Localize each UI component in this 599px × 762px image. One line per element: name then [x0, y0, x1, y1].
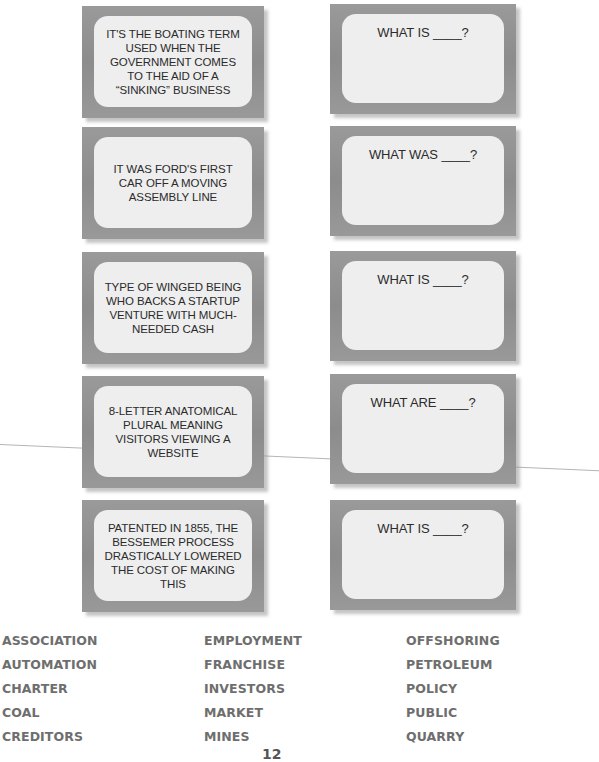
- clue-card-text: PATENTED IN 1855, THE BESSEMER PROCESS D…: [94, 510, 252, 601]
- clue-card-text: IT'S THE BOATING TERM USED WHEN THE GOVE…: [94, 16, 252, 107]
- answer-card-5: WHAT IS ____?: [330, 500, 516, 610]
- answer-card-4: WHAT ARE ____?: [330, 374, 516, 484]
- word-bank-item: MARKET: [204, 701, 302, 725]
- answer-card-text: WHAT IS ____?: [342, 14, 504, 103]
- answer-card-1: WHAT IS ____?: [330, 4, 516, 114]
- answer-card-3: WHAT IS ____?: [330, 251, 516, 361]
- clue-card-text: IT WAS FORD'S FIRST CAR OFF A MOVING ASS…: [94, 137, 252, 228]
- answer-card-text: WHAT WAS ____?: [342, 136, 504, 225]
- word-bank-item: CHARTER: [2, 677, 98, 701]
- answer-card-text: WHAT ARE ____?: [342, 384, 504, 473]
- word-bank-item: EMPLOYMENT: [204, 629, 302, 653]
- clue-card-3: TYPE OF WINGED BEING WHO BACKS A STARTUP…: [82, 252, 264, 364]
- word-bank-item: COAL: [2, 701, 98, 725]
- answer-card-2: WHAT WAS ____?: [330, 126, 516, 236]
- word-bank-item: OFFSHORING: [406, 629, 500, 653]
- word-bank-item: INVESTORS: [204, 677, 302, 701]
- clue-card-text: TYPE OF WINGED BEING WHO BACKS A STARTUP…: [94, 262, 252, 353]
- page-number: 12: [262, 746, 281, 762]
- clue-card-2: IT WAS FORD'S FIRST CAR OFF A MOVING ASS…: [82, 127, 264, 239]
- answer-card-text: WHAT IS ____?: [342, 261, 504, 350]
- clue-card-4: 8-LETTER ANATOMICAL PLURAL MEANING VISIT…: [82, 376, 264, 488]
- word-bank-column-3: OFFSHORING PETROLEUM POLICY PUBLIC QUARR…: [406, 629, 500, 749]
- word-bank-item: FRANCHISE: [204, 653, 302, 677]
- clue-card-text: 8-LETTER ANATOMICAL PLURAL MEANING VISIT…: [94, 386, 252, 477]
- word-bank-item: QUARRY: [406, 725, 500, 749]
- word-bank-item: CREDITORS: [2, 725, 98, 749]
- word-bank-item: PETROLEUM: [406, 653, 500, 677]
- clue-card-5: PATENTED IN 1855, THE BESSEMER PROCESS D…: [82, 500, 264, 612]
- clue-card-1: IT'S THE BOATING TERM USED WHEN THE GOVE…: [82, 6, 264, 118]
- word-bank-item: MINES: [204, 725, 302, 749]
- word-bank-item: POLICY: [406, 677, 500, 701]
- word-bank-item: PUBLIC: [406, 701, 500, 725]
- word-bank-item: AUTOMATION: [2, 653, 98, 677]
- word-bank-column-2: EMPLOYMENT FRANCHISE INVESTORS MARKET MI…: [204, 629, 302, 749]
- answer-card-text: WHAT IS ____?: [342, 510, 504, 599]
- word-bank-column-1: ASSOCIATION AUTOMATION CHARTER COAL CRED…: [2, 629, 98, 749]
- word-bank-item: ASSOCIATION: [2, 629, 98, 653]
